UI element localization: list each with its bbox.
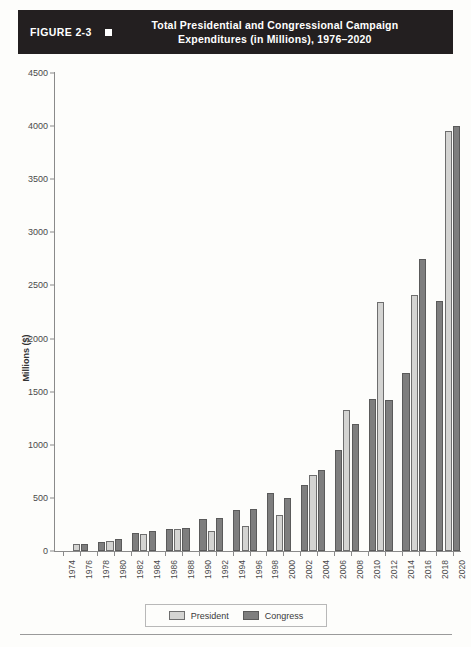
x-axis-tick-label: 1982 [135, 560, 145, 579]
chart-area: Millions ($) 050010001500200025003000350… [0, 58, 471, 618]
bar-congress-1982 [132, 533, 139, 551]
bar-president-1996 [242, 526, 249, 551]
bar-congress-1994 [233, 510, 240, 551]
bar-congress-1988 [182, 528, 189, 551]
bar-congress-2018 [436, 301, 443, 551]
x-axis-tick-mark [114, 551, 115, 556]
bar-congress-2012 [385, 400, 392, 551]
x-axis-tick-label: 1974 [67, 560, 77, 579]
x-axis-tick-mark [266, 551, 267, 556]
figure-title-line-2: Expenditures (in Millions), 1976–2020 [123, 32, 427, 46]
bar-congress-1976 [81, 544, 88, 551]
y-axis-tick-mark [50, 232, 54, 233]
legend-item-congress: Congress [243, 611, 304, 621]
bar-congress-1998 [267, 493, 274, 551]
bar-congress-1992 [216, 518, 223, 551]
legend-swatch-president [169, 611, 185, 620]
y-axis-tick-label: 1000 [0, 440, 55, 450]
x-axis-tick-label: 1992 [220, 560, 230, 579]
footer-divider [20, 634, 452, 635]
y-axis-tick-label: 0 [0, 546, 55, 556]
bar-president-2008 [343, 410, 350, 551]
y-axis-tick-label: 4000 [0, 121, 55, 131]
x-axis-tick-label: 2010 [372, 560, 382, 579]
square-marker-icon [105, 29, 112, 36]
bar-congress-2002 [301, 485, 308, 551]
bar-president-2016 [411, 295, 418, 551]
bar-president-2004 [309, 475, 316, 551]
bar-congress-2010 [369, 399, 376, 551]
bar-congress-2006 [335, 450, 342, 551]
x-axis-tick-mark [334, 551, 335, 556]
x-axis-tick-label: 2012 [389, 560, 399, 579]
x-axis-tick-label: 2004 [321, 560, 331, 579]
y-axis-tick-mark [50, 551, 54, 552]
bar-president-1992 [208, 531, 215, 551]
x-axis-tick-label: 1994 [237, 560, 247, 579]
x-axis-tick-label: 2018 [440, 560, 450, 579]
x-axis-tick-mark [97, 551, 98, 556]
bar-president-2012 [377, 302, 384, 551]
figure-title: Total Presidential and Congressional Cam… [123, 18, 441, 46]
x-axis-tick-mark [419, 551, 420, 556]
x-axis-tick-label: 1990 [203, 560, 213, 579]
x-axis-tick-mark [368, 551, 369, 556]
x-axis-tick-mark [453, 551, 454, 556]
chart-legend: President Congress [145, 604, 327, 627]
x-axis-tick-label: 1988 [186, 560, 196, 579]
bar-congress-2004 [318, 470, 325, 551]
x-axis-tick-label: 2002 [304, 560, 314, 579]
x-axis-tick-mark [182, 551, 183, 556]
x-axis-tick-label: 1996 [254, 560, 264, 579]
legend-swatch-congress [243, 611, 259, 620]
y-axis-tick-label: 500 [0, 493, 55, 503]
x-axis-tick-mark [283, 551, 284, 556]
legend-label-congress: Congress [265, 611, 304, 621]
x-axis-tick-label: 1998 [270, 560, 280, 579]
figure-title-line-1: Total Presidential and Congressional Cam… [123, 18, 427, 32]
y-axis-tick-mark [50, 73, 54, 74]
bar-congress-2008 [352, 424, 359, 551]
bar-congress-1978 [98, 542, 105, 551]
x-axis-tick-label: 1986 [169, 560, 179, 579]
x-axis-tick-mark [63, 551, 64, 556]
y-axis-tick-mark [50, 179, 54, 180]
bar-president-1980 [106, 541, 113, 551]
figure-number: FIGURE 2-3 [30, 26, 92, 38]
bar-congress-2014 [402, 373, 409, 551]
x-axis-tick-label: 2014 [406, 560, 416, 579]
x-axis-tick-mark [216, 551, 217, 556]
x-axis-tick-mark [351, 551, 352, 556]
y-axis-tick-label: 2500 [0, 280, 55, 290]
y-axis-tick-label: 4500 [0, 68, 55, 78]
x-axis-tick-label: 1980 [118, 560, 128, 579]
y-axis-tick-mark [50, 338, 54, 339]
y-axis-tick-mark [50, 497, 54, 498]
x-axis-tick-mark [317, 551, 318, 556]
x-axis-tick-label: 1984 [152, 560, 162, 579]
x-axis-tick-mark [436, 551, 437, 556]
legend-item-president: President [169, 611, 229, 621]
bar-congress-1980 [115, 539, 122, 551]
x-axis-tick-label: 2000 [287, 560, 297, 579]
x-axis-tick-mark [385, 551, 386, 556]
x-axis-tick-mark [199, 551, 200, 556]
x-axis-tick-label: 1978 [101, 560, 111, 579]
bar-congress-1990 [199, 519, 206, 551]
y-axis-tick-mark [50, 126, 54, 127]
x-axis-tick-label: 2006 [338, 560, 348, 579]
bar-president-1984 [140, 534, 147, 551]
figure-page: FIGURE 2-3 Total Presidential and Congre… [0, 0, 471, 647]
legend-label-president: President [191, 611, 229, 621]
bar-congress-1996 [250, 509, 257, 551]
y-axis-tick-mark [50, 444, 54, 445]
bar-president-2020 [445, 131, 452, 551]
x-axis-tick-mark [250, 551, 251, 556]
x-axis-tick-mark [165, 551, 166, 556]
x-axis-tick-mark [402, 551, 403, 556]
bar-president-1976 [73, 544, 80, 551]
bar-president-1988 [174, 529, 181, 551]
y-axis-tick-label: 3000 [0, 227, 55, 237]
bar-congress-2016 [419, 259, 426, 551]
y-axis-tick-label: 3500 [0, 174, 55, 184]
